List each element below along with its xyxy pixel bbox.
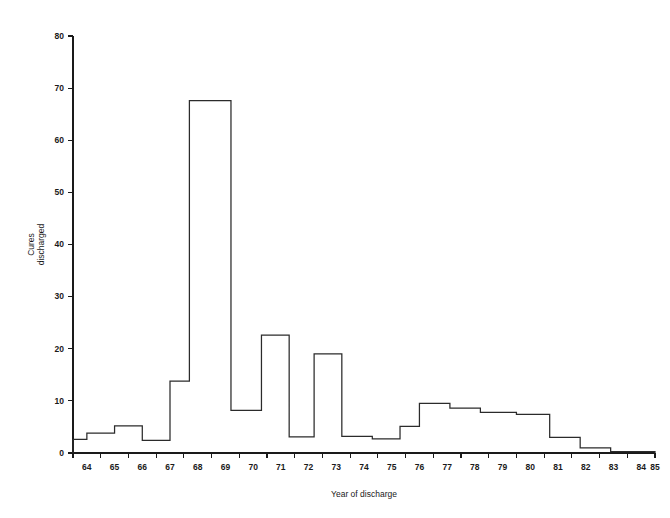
x-axis-tick-label: 76 <box>415 462 425 472</box>
y-axis-tick-label: 0 <box>59 448 64 458</box>
y-axis-tick-label: 50 <box>55 187 65 197</box>
y-axis-title: Curesdischarged <box>26 223 46 265</box>
chart-container: 01020304050607080 6465666768697071727374… <box>0 0 670 518</box>
y-axis-tick-label: 70 <box>55 83 65 93</box>
y-axis-tick-label: 40 <box>55 239 65 249</box>
y-axis: 01020304050607080 <box>55 31 73 458</box>
x-axis-title: Year of discharge <box>331 489 397 499</box>
x-axis-tick-label: 77 <box>442 462 452 472</box>
x-axis-tick-label: 72 <box>304 462 314 472</box>
x-axis-tick-label: 70 <box>248 462 258 472</box>
y-axis-title-line: discharged <box>36 223 46 265</box>
x-axis-tick-label: 84 <box>636 462 646 472</box>
x-axis-tick-label: 71 <box>276 462 286 472</box>
y-axis-tick-label: 30 <box>55 291 65 301</box>
x-axis-tick-label: 80 <box>526 462 536 472</box>
x-axis-tick-label: 83 <box>609 462 619 472</box>
x-axis-tick-label: 82 <box>581 462 591 472</box>
y-axis-tick-label: 20 <box>55 344 65 354</box>
x-axis-tick-label: 85 <box>650 462 660 472</box>
x-axis-tick-label: 68 <box>193 462 203 472</box>
y-axis-tick-label: 60 <box>55 135 65 145</box>
y-axis-tick-label: 10 <box>55 396 65 406</box>
step-chart: 01020304050607080 6465666768697071727374… <box>0 0 670 518</box>
x-axis-tick-label: 78 <box>470 462 480 472</box>
x-axis-tick-label: 75 <box>387 462 397 472</box>
step-line <box>73 101 655 453</box>
x-axis-tick-label: 81 <box>553 462 563 472</box>
data-series <box>73 101 655 453</box>
x-axis-tick-label: 65 <box>110 462 120 472</box>
x-axis-tick-label: 79 <box>498 462 508 472</box>
x-axis-tick-label: 66 <box>138 462 148 472</box>
x-axis-tick-label: 64 <box>82 462 92 472</box>
x-axis: 6465666768697071727374757677787980818283… <box>73 453 660 472</box>
x-axis-tick-label: 73 <box>332 462 342 472</box>
x-axis-tick-label: 69 <box>221 462 231 472</box>
x-axis-tick-label: 74 <box>359 462 369 472</box>
y-axis-title-line: Cures <box>26 233 36 256</box>
y-axis-tick-label: 80 <box>55 31 65 41</box>
x-axis-tick-label: 67 <box>165 462 175 472</box>
